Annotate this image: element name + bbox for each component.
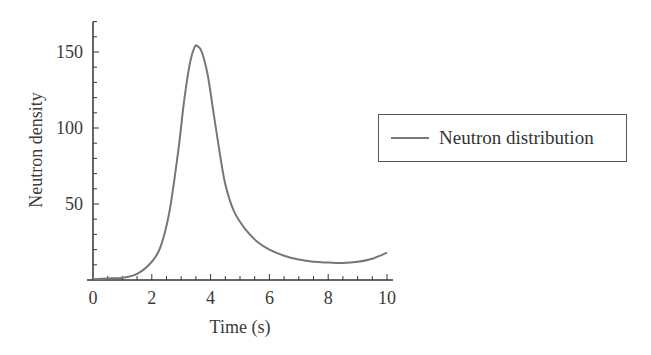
y-tick-label: 100 bbox=[56, 118, 83, 138]
y-tick-label: 150 bbox=[56, 42, 83, 62]
x-axis-title: Time (s) bbox=[210, 317, 271, 338]
x-tick-label: 10 bbox=[378, 288, 396, 308]
x-tick-label: 6 bbox=[265, 288, 274, 308]
chart-axes bbox=[87, 22, 393, 281]
legend: Neutron distribution bbox=[378, 114, 627, 162]
x-tick-label: 4 bbox=[206, 288, 215, 308]
legend-label: Neutron distribution bbox=[439, 127, 594, 149]
y-axis-title: Neutron density bbox=[26, 92, 46, 207]
neutron-distribution-line bbox=[93, 45, 387, 279]
tick-labels: 024681050100150 bbox=[56, 42, 396, 308]
x-tick-label: 8 bbox=[324, 288, 333, 308]
x-tick-label: 0 bbox=[89, 288, 98, 308]
line-chart: 024681050100150 Time (s) Neutron density bbox=[0, 0, 651, 355]
legend-line-swatch bbox=[391, 137, 429, 139]
x-tick-label: 2 bbox=[147, 288, 156, 308]
y-tick-label: 50 bbox=[65, 194, 83, 214]
